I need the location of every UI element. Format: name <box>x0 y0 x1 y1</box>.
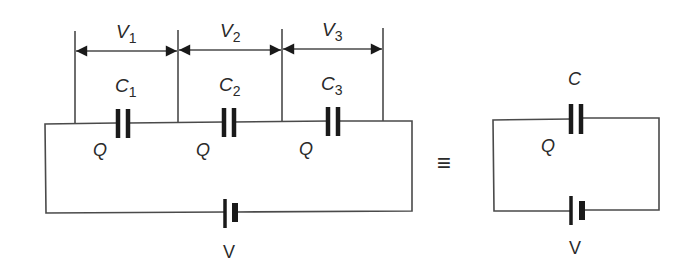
battery-series <box>225 199 238 228</box>
label-v3: V3 <box>322 19 343 44</box>
label-equivalent-v: V <box>569 238 581 258</box>
label-q1: Q <box>93 140 107 160</box>
label-c: C <box>568 69 582 89</box>
label-v2: V2 <box>220 20 241 45</box>
capacitor-c1 <box>118 109 128 138</box>
equivalent-loop-wire <box>493 118 659 211</box>
label-c3: C3 <box>321 73 343 98</box>
label-c1: C1 <box>115 75 137 100</box>
label-q: Q <box>541 136 555 156</box>
circuit-diagram: V1 V2 V3 C1 C2 C3 Q Q Q V ≡ C Q V <box>0 0 696 275</box>
label-q3: Q <box>299 139 313 159</box>
series-circuit: V1 V2 V3 C1 C2 C3 Q Q Q V <box>45 19 412 262</box>
label-c2: C2 <box>219 74 241 99</box>
capacitor-c <box>571 104 581 134</box>
label-q2: Q <box>196 140 210 160</box>
equivalent-circuit: C Q V <box>493 69 659 258</box>
equivalence-symbol: ≡ <box>437 149 451 176</box>
series-loop-wire <box>45 121 412 213</box>
series-top-wire-segment <box>128 121 330 123</box>
label-v1: V1 <box>116 21 137 46</box>
battery-equivalent <box>571 196 585 225</box>
label-battery-v: V <box>223 242 235 262</box>
capacitor-c3 <box>328 107 338 136</box>
capacitor-c2 <box>224 108 234 137</box>
